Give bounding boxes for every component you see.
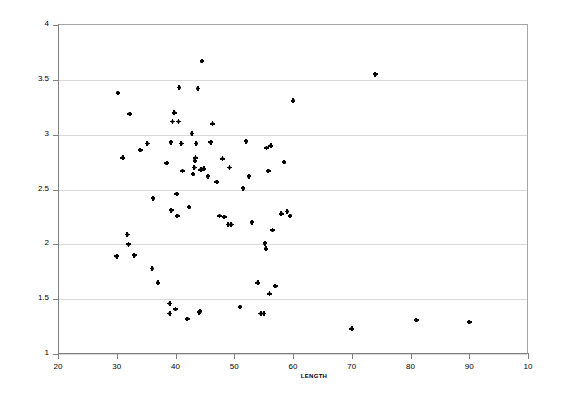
data-point <box>127 243 130 246</box>
data-point <box>374 73 377 76</box>
data-point <box>116 91 119 94</box>
data-point <box>256 281 259 284</box>
data-point <box>242 187 245 190</box>
data-point <box>215 180 218 183</box>
data-point <box>283 161 286 164</box>
data-point <box>206 175 209 178</box>
right-edge-clip <box>529 0 586 397</box>
x-tick-label: 20 <box>43 362 73 371</box>
y-tick-label: 4 <box>19 19 49 28</box>
x-tick-mark <box>234 354 235 359</box>
x-tick-label: 10 <box>513 362 543 371</box>
x-tick-mark <box>176 354 177 359</box>
data-point <box>165 162 168 165</box>
data-point <box>181 169 184 172</box>
y-tick-label: 1 <box>19 348 49 357</box>
x-tick-label: 50 <box>219 362 249 371</box>
data-point <box>250 221 253 224</box>
x-axis-title: LENGTH <box>284 373 344 379</box>
data-point <box>228 166 231 169</box>
data-point <box>202 167 205 170</box>
data-point <box>267 169 270 172</box>
data-point <box>178 86 181 89</box>
y-tick-label: 2 <box>19 238 49 247</box>
data-point <box>139 149 142 152</box>
x-tick-mark <box>117 354 118 359</box>
data-point <box>192 173 195 176</box>
data-point <box>168 302 171 305</box>
x-tick-mark <box>528 354 529 359</box>
data-point <box>350 327 353 330</box>
data-point <box>268 292 271 295</box>
data-point <box>280 212 283 215</box>
data-point <box>168 312 171 315</box>
data-point <box>128 112 131 115</box>
gridline-y <box>58 80 527 81</box>
data-point <box>271 229 274 232</box>
x-tick-label: 60 <box>278 362 308 371</box>
data-point <box>199 310 202 313</box>
data-point <box>209 141 212 144</box>
data-point <box>289 214 292 217</box>
data-point <box>211 122 214 125</box>
data-point <box>146 142 149 145</box>
data-point <box>188 206 191 209</box>
data-point <box>175 192 178 195</box>
data-point <box>170 209 173 212</box>
x-tick-label: 70 <box>337 362 367 371</box>
data-point <box>177 120 180 123</box>
data-point <box>180 142 183 145</box>
data-point <box>156 281 159 284</box>
data-point <box>193 166 196 169</box>
data-point <box>230 223 233 226</box>
data-point <box>264 247 267 250</box>
data-point <box>265 146 268 149</box>
data-point <box>195 142 198 145</box>
data-point <box>194 156 197 159</box>
data-point <box>274 285 277 288</box>
data-point <box>169 141 172 144</box>
data-point <box>133 254 136 257</box>
x-tick-label: 40 <box>161 362 191 371</box>
data-point <box>121 156 124 159</box>
data-point <box>152 197 155 200</box>
data-point <box>269 144 272 147</box>
data-point <box>245 140 248 143</box>
y-tick-label: 1.5 <box>19 293 49 302</box>
x-axis-line <box>58 353 529 354</box>
data-point <box>196 87 199 90</box>
gridline-y <box>58 299 527 300</box>
gridline-y <box>58 135 527 136</box>
plot-area <box>58 24 528 353</box>
x-tick-mark <box>293 354 294 359</box>
data-point <box>247 175 250 178</box>
x-tick-mark <box>58 354 59 359</box>
x-tick-mark <box>411 354 412 359</box>
data-point <box>221 157 224 160</box>
data-point <box>468 321 471 324</box>
y-tick-label: 3.5 <box>19 74 49 83</box>
data-point <box>415 319 418 322</box>
x-tick-mark <box>352 354 353 359</box>
x-tick-label: 30 <box>102 362 132 371</box>
data-point <box>239 305 242 308</box>
x-tick-label: 80 <box>396 362 426 371</box>
data-point <box>262 312 265 315</box>
scatter-chart: 11.522.533.54 203040506070809010 WITH RA… <box>0 0 586 397</box>
data-point <box>115 255 118 258</box>
data-point <box>292 99 295 102</box>
data-point <box>171 120 174 123</box>
data-point <box>186 317 189 320</box>
x-tick-mark <box>469 354 470 359</box>
data-point <box>286 210 289 213</box>
data-point <box>223 215 226 218</box>
data-point <box>200 60 203 63</box>
y-tick-label: 2.5 <box>19 184 49 193</box>
y-axis-line <box>58 24 59 354</box>
x-tick-label: 90 <box>454 362 484 371</box>
data-point <box>151 267 154 270</box>
data-point <box>173 111 176 114</box>
data-point <box>126 233 129 236</box>
y-tick-label: 3 <box>19 129 49 138</box>
data-point <box>174 308 177 311</box>
